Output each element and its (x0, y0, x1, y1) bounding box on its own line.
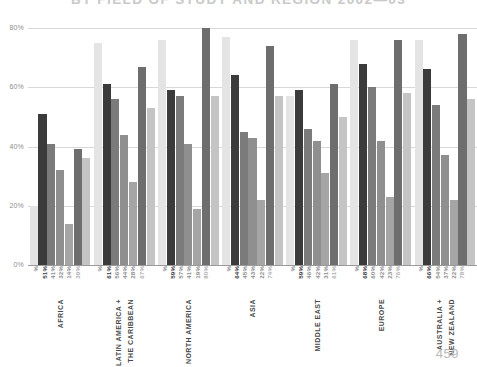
bar-value-text: 19% (193, 266, 200, 279)
bar-value-label: 22% (257, 266, 265, 296)
bar-value-label: 44% (120, 266, 128, 296)
bar-value-text: % (160, 266, 167, 272)
bar (94, 43, 102, 265)
bar-value-label: 61% (329, 266, 337, 296)
bar (266, 46, 274, 265)
bar-value-text: 78% (458, 266, 465, 279)
region-label-text: MIDDLE EAST (313, 299, 320, 351)
bar-value-label: 54% (432, 266, 440, 296)
region-label-text: EUROPE (377, 299, 384, 331)
bar (184, 144, 192, 265)
bar (368, 87, 376, 265)
bar-group (413, 28, 477, 265)
bar-value-text: 41% (185, 266, 192, 279)
bar-value-label: 23% (385, 266, 393, 296)
x-axis-group-label: %51%41%32%14%39%AFRICA (28, 266, 92, 367)
bar (330, 84, 338, 265)
bar-value-text: 68% (361, 266, 368, 279)
bar-value-text: 14% (65, 266, 72, 279)
bar-value-text: 22% (450, 266, 457, 279)
bar (313, 141, 321, 265)
region-label-line: THE CARIBBEAN (125, 299, 135, 365)
region-label-text: NORTH AMERICA (185, 299, 192, 364)
bar-value-label (401, 266, 409, 296)
bar-value-label: 45% (240, 266, 248, 296)
bar (147, 108, 155, 265)
bar-value-text: 41% (48, 266, 55, 279)
bar-value-label: % (31, 266, 39, 296)
bar (103, 84, 111, 265)
bar-group (220, 28, 284, 265)
bar-value-label: 66% (424, 266, 432, 296)
bar-value-label: % (224, 266, 232, 296)
bar (222, 37, 230, 265)
bar (129, 182, 137, 265)
bar-value-labels: %68%60%42%23%76% (352, 266, 410, 296)
region-label-line: MIDDLE EAST (312, 299, 322, 365)
y-axis-tick-80: 80% (0, 24, 24, 31)
bar (321, 173, 329, 265)
bar-value-label: 19% (192, 266, 200, 296)
bar (386, 197, 394, 265)
bar-value-label: 39% (72, 266, 80, 296)
bar-groups (28, 28, 477, 265)
region-label: NORTH AMERICA (153, 299, 223, 365)
bar-value-text: 61% (330, 266, 337, 279)
bar-value-label: 14% (64, 266, 72, 296)
bar (441, 155, 449, 265)
region-label-line: LATIN AMERICA + (113, 299, 123, 365)
bar-value-text: 61% (104, 266, 111, 279)
bar (458, 34, 466, 265)
bar-value-label: 74% (265, 266, 273, 296)
bar (231, 75, 239, 265)
bar-value-text: 44% (121, 266, 128, 279)
bar (377, 141, 385, 265)
bar (158, 40, 166, 265)
bar (111, 99, 119, 265)
bar-value-text: % (417, 266, 424, 272)
y-axis-tick-0: 0% (0, 261, 24, 268)
bar-value-label: 22% (449, 266, 457, 296)
bar-value-label: 42% (312, 266, 320, 296)
bar-value-label: 37% (441, 266, 449, 296)
x-axis-group-label: %61%56%44%28%67%LATIN AMERICA +THE CARIB… (92, 266, 156, 367)
bar (295, 90, 303, 265)
bar-value-text: % (32, 266, 39, 272)
bar-value-label (337, 266, 345, 296)
region-label-text: AFRICA (57, 299, 64, 328)
bar-value-label: 43% (248, 266, 256, 296)
region-label-text: LATIN AMERICA + (115, 299, 122, 366)
bar-value-label: 42% (377, 266, 385, 296)
bar-value-text: 43% (249, 266, 256, 279)
region-label-text: AUSTRALIA + (435, 299, 442, 350)
x-axis-labels: %51%41%32%14%39%AFRICA%61%56%44%28%67%LA… (28, 266, 477, 367)
chart-title: BY FIELD OF STUDY AND REGION 2002—03 (0, 0, 477, 7)
bar-value-text: 28% (129, 266, 136, 279)
bar (423, 69, 431, 265)
bar-value-text: 46% (305, 266, 312, 279)
bar-value-text: 60% (369, 266, 376, 279)
bar-value-text: % (96, 266, 103, 272)
bar (167, 90, 175, 265)
x-axis-group-label: %68%60%42%23%76%EUROPE (349, 266, 413, 367)
bar-value-text: 74% (266, 266, 273, 279)
bar-value-text: 54% (433, 266, 440, 279)
bar (193, 209, 201, 265)
bar-value-text: 23% (386, 266, 393, 279)
bar-value-label: 51% (39, 266, 47, 296)
bar (74, 149, 82, 265)
bar-value-label: 60% (368, 266, 376, 296)
bar (350, 40, 358, 265)
bar (304, 129, 312, 265)
y-axis-tick-60: 60% (0, 83, 24, 90)
bar-value-text: 32% (57, 266, 64, 279)
bar (202, 28, 210, 265)
bar-value-text: 59% (297, 266, 304, 279)
bar (450, 200, 458, 265)
bar (120, 135, 128, 265)
bar-value-label (209, 266, 217, 296)
bar-value-label (81, 266, 89, 296)
region-label-line: ASIA (247, 299, 257, 365)
bar-value-text: 64% (232, 266, 239, 279)
bar-value-label: 68% (360, 266, 368, 296)
